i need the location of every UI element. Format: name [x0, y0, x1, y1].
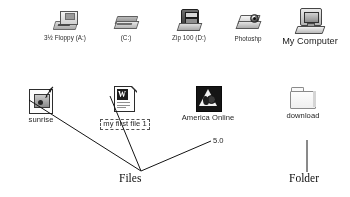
desktop-icon-my-first-file[interactable]: W my first file 1: [89, 86, 161, 130]
desktop-icon-my-computer[interactable]: My Computer: [272, 8, 348, 46]
desktop-icon-floppy-drive[interactable]: 3½ Floppy (A:): [28, 10, 102, 42]
desktop-icon-label: Zip 100 (D:): [158, 34, 220, 42]
desktop-icon-america-online[interactable]: America Online: [160, 86, 256, 123]
my-computer-icon: [295, 8, 325, 34]
annotation-files: Files: [119, 172, 141, 184]
leader-line-america-online: [141, 141, 211, 171]
america-online-icon: [194, 86, 222, 112]
hard-drive-icon: [113, 12, 139, 32]
desktop-icon-zip-drive[interactable]: Zip 100 (D:): [158, 9, 220, 42]
floppy-drive-icon: [52, 10, 78, 32]
word-document-icon: W: [112, 86, 138, 112]
annotation-folder: Folder: [289, 172, 319, 184]
image-file-icon: [28, 88, 54, 114]
zip-drive-icon: [176, 9, 202, 32]
desktop-icon-label: My Computer: [272, 36, 348, 46]
desktop-icon-download[interactable]: download: [272, 87, 334, 121]
desktop-icon-label: America Online: [160, 114, 256, 123]
desktop-icon-sunrise[interactable]: sunrise: [14, 88, 68, 125]
desktop-icon-label[interactable]: my first file 1: [100, 119, 149, 130]
desktop-icon-label: sunrise: [14, 116, 68, 125]
desktop-icon-label: download: [272, 112, 334, 121]
photoshop-scanner-icon: [235, 12, 261, 33]
desktop-icon-label: (C:): [102, 34, 150, 42]
desktop-icon-label: 3½ Floppy (A:): [28, 34, 102, 42]
desktop-icon-label-version: 5.0: [213, 136, 224, 145]
desktop-screenshot: 3½ Floppy (A:) (C:) Zip 100 (D:) Photosh…: [0, 0, 350, 197]
folder-icon: [289, 87, 317, 110]
desktop-icon-c-drive[interactable]: (C:): [102, 12, 150, 42]
paintbrush-icon: [40, 86, 55, 102]
desktop-icon-label: Photoshp: [222, 35, 274, 43]
desktop-icon-photoshop[interactable]: Photoshp: [222, 12, 274, 43]
